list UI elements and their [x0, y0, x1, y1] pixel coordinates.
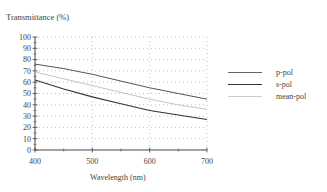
y-tick-label: 60: [23, 78, 31, 87]
series-line-p-pol: [35, 64, 207, 99]
y-tick-label: 30: [23, 112, 31, 121]
x-tick-label: 700: [201, 157, 213, 166]
legend: p-pol s-pol mean-pol: [228, 66, 306, 102]
legend-swatch-s-pol: [228, 84, 262, 85]
legend-swatch-p-pol: [228, 72, 262, 73]
y-tick-label: 70: [23, 67, 31, 76]
y-tick-label: 80: [23, 55, 31, 64]
y-tick-label: 90: [23, 44, 31, 53]
y-tick-label: 50: [23, 89, 31, 98]
legend-item-p-pol: p-pol: [228, 66, 306, 78]
legend-label: s-pol: [276, 80, 292, 89]
y-tick-label: 0: [27, 146, 31, 155]
x-tick-label: 500: [86, 157, 98, 166]
x-tick-label: 400: [29, 157, 41, 166]
legend-label: mean-pol: [276, 92, 306, 101]
x-axis-title: Wavelength (nm): [90, 173, 146, 182]
legend-swatch-mean-pol: [228, 96, 262, 97]
y-tick-label: 10: [23, 135, 31, 144]
series-line-s-pol: [35, 80, 207, 120]
y-tick-label: 40: [23, 101, 31, 110]
y-tick-label: 20: [23, 123, 31, 132]
legend-label: p-pol: [276, 68, 293, 77]
legend-item-s-pol: s-pol: [228, 78, 306, 90]
x-tick-label: 600: [144, 157, 156, 166]
y-tick-label: 100: [19, 33, 31, 42]
legend-item-mean-pol: mean-pol: [228, 90, 306, 102]
